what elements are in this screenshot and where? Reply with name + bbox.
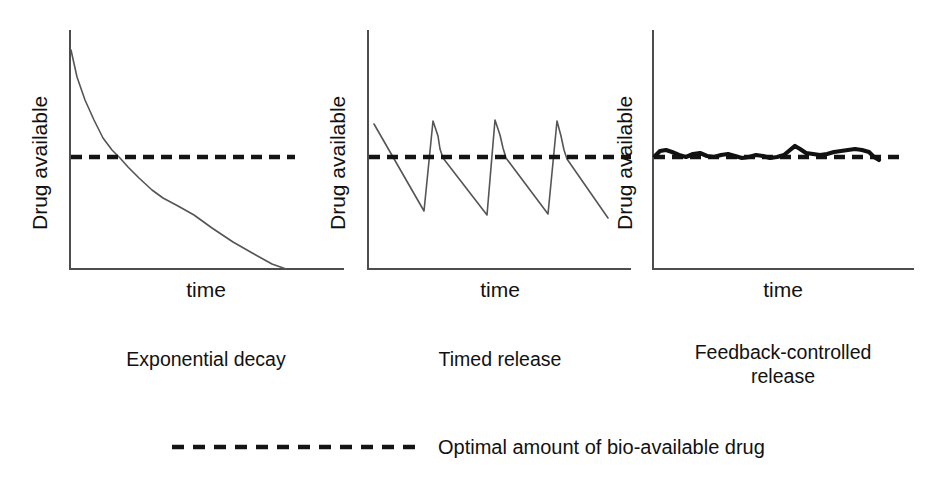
panel3-x-axis-label: time	[763, 278, 803, 301]
panel3-caption-line1: Feedback-controlled	[695, 341, 872, 363]
panel3-axes	[653, 31, 913, 269]
panel3-caption-line2: release	[751, 365, 815, 387]
panel2-y-axis-label: Drug available	[326, 96, 349, 230]
panel3-y-axis-label: Drug available	[613, 96, 636, 230]
panel3-feedback-curve	[655, 146, 879, 160]
panel2-caption: Timed release	[439, 348, 562, 370]
panel1-y-axis-label: Drug available	[28, 96, 51, 230]
panel-timed-release: Drug available time Timed release	[326, 31, 631, 370]
panel1-decay-curve	[71, 50, 286, 269]
figure-legend: Optimal amount of bio-available drug	[172, 436, 765, 458]
figure-canvas: Drug available time Exponential decay Dr…	[0, 0, 948, 487]
panel1-caption: Exponential decay	[126, 348, 286, 370]
panel2-axes	[368, 31, 630, 269]
panel-exponential-decay: Drug available time Exponential decay	[28, 31, 343, 370]
panel2-x-axis-label: time	[480, 278, 520, 301]
panel1-axes	[70, 31, 343, 269]
legend-label: Optimal amount of bio-available drug	[438, 436, 765, 458]
drug-release-figure: Drug available time Exponential decay Dr…	[0, 0, 948, 487]
panel1-x-axis-label: time	[186, 278, 226, 301]
panel-feedback-controlled-release: Drug available time Feedback-controlled …	[613, 31, 913, 387]
panel2-sawtooth-curve	[374, 120, 608, 218]
